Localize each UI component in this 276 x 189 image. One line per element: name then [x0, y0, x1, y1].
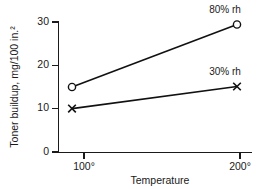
y-tick-label-10: 10	[37, 101, 49, 113]
series-80-rh: 80% rh	[68, 4, 240, 91]
series-30-rh-label: 30% rh	[209, 66, 241, 77]
x-axis-title: Temperature	[131, 174, 190, 186]
x-tick-label-200: 200°	[229, 160, 251, 172]
y-tick-label-0: 0	[43, 145, 49, 157]
series-80-rh-point-200	[233, 21, 240, 28]
chart-container: 30 20 10 0 100° 200° Temperature Toner b…	[0, 0, 276, 189]
series-80-rh-line	[72, 25, 237, 88]
series-80-rh-label: 80% rh	[209, 4, 241, 15]
y-tick-label-30: 30	[37, 15, 49, 27]
y-axis-title: Toner buildup, mg/100 in.²	[8, 26, 20, 148]
series-30-rh: 30% rh	[68, 66, 241, 112]
toner-buildup-line-chart: 30 20 10 0 100° 200° Temperature Toner b…	[0, 0, 276, 189]
series-30-rh-line	[72, 87, 237, 109]
y-tick-label-20: 20	[37, 58, 49, 70]
series-80-rh-point-100	[68, 83, 75, 90]
x-tick-label-100: 100°	[73, 160, 95, 172]
